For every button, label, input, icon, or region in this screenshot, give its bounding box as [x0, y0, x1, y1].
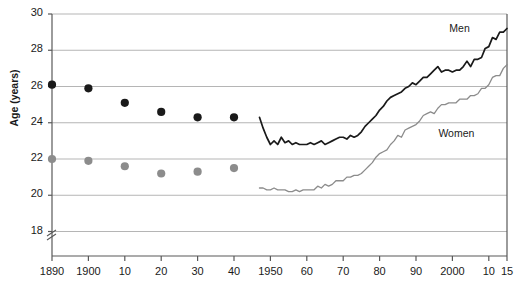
data-point-men: [84, 84, 92, 92]
x-axis-tick-label: 20: [155, 265, 167, 277]
data-point-men: [48, 81, 56, 89]
y-axis-tick-label: 18: [19, 224, 43, 236]
y-axis-title: Age (years): [8, 58, 20, 138]
data-point-women: [194, 168, 202, 176]
x-axis-tick-label: 15: [501, 265, 513, 277]
x-axis-tick-label: 10: [119, 265, 131, 277]
x-axis-ticks-group: [52, 256, 507, 261]
gridlines-group: [52, 14, 507, 232]
x-axis-tick-label: 1950: [258, 265, 282, 277]
data-point-women: [84, 157, 92, 165]
series-label-men: Men: [449, 22, 469, 34]
data-point-women: [157, 169, 165, 177]
y-axis-tick-label: 20: [19, 187, 43, 199]
y-axis-tick-label: 22: [19, 151, 43, 163]
series-label-women: Women: [438, 127, 474, 139]
chart-container: 18202224262830 1890190010203040195060708…: [0, 0, 525, 289]
chart-plot-area: [0, 0, 525, 289]
data-point-men: [230, 113, 238, 121]
series-lines-group: [259, 29, 507, 192]
y-axis-tick-label: 28: [19, 42, 43, 54]
data-point-women: [230, 164, 238, 172]
x-axis-tick-label: 30: [191, 265, 203, 277]
x-axis-tick-label: 10: [483, 265, 495, 277]
data-point-men: [157, 108, 165, 116]
x-axis-tick-label: 1900: [76, 265, 100, 277]
x-axis-tick-label: 1890: [40, 265, 64, 277]
x-axis-tick-label: 90: [410, 265, 422, 277]
x-axis-tick-label: 40: [228, 265, 240, 277]
series-markers-group: [48, 81, 238, 178]
data-point-men: [121, 99, 129, 107]
data-point-women: [121, 162, 129, 170]
x-axis-tick-label: 80: [373, 265, 385, 277]
data-point-women: [48, 155, 56, 163]
x-axis-tick-label: 2000: [440, 265, 464, 277]
y-axis-tick-label: 26: [19, 79, 43, 91]
y-axis-tick-label: 30: [19, 6, 43, 18]
x-axis-tick-label: 70: [337, 265, 349, 277]
x-axis-tick-label: 60: [301, 265, 313, 277]
y-axis-tick-label: 24: [19, 115, 43, 127]
data-point-men: [194, 113, 202, 121]
